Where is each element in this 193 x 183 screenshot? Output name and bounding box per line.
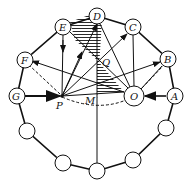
label-m: M <box>84 95 96 106</box>
label-a: A <box>170 91 178 102</box>
label-o: O <box>130 91 138 102</box>
node-bottom-1 <box>19 123 35 139</box>
label-b: B <box>163 54 171 65</box>
label-g: G <box>12 91 20 102</box>
label-c: C <box>129 22 137 33</box>
node-bottom-3 <box>55 155 71 171</box>
label-d: D <box>92 11 101 22</box>
diagram: D E C F B G A O P M Q <box>0 0 193 183</box>
node-bottom-5 <box>89 163 105 179</box>
point-p <box>60 94 64 98</box>
label-e: E <box>58 22 67 33</box>
label-f: F <box>20 55 29 66</box>
node-bottom-4 <box>125 152 141 168</box>
ring-diagram-svg: D E C F B G A O P M Q <box>0 0 193 183</box>
label-q: Q <box>102 57 110 68</box>
label-p: P <box>55 100 63 111</box>
node-bottom-2 <box>158 120 174 136</box>
